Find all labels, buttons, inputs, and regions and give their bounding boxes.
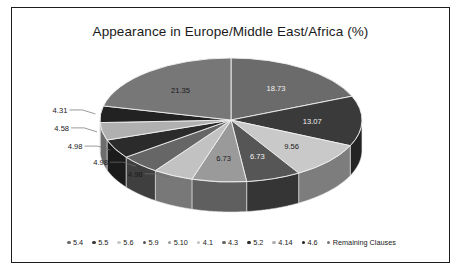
legend-item-label: 5.2 bbox=[253, 239, 263, 246]
data-label-leader-line bbox=[69, 110, 95, 114]
legend-swatch-icon bbox=[67, 241, 71, 245]
legend-item[interactable]: 4.3 bbox=[222, 239, 238, 246]
legend-item[interactable]: 4.14 bbox=[272, 239, 292, 246]
legend-item-label: 5.6 bbox=[123, 239, 133, 246]
chart-title: Appearance in Europe/Middle East/Africa … bbox=[12, 24, 449, 39]
legend-swatch-icon bbox=[168, 241, 172, 245]
pie-data-label: 18.73 bbox=[267, 84, 286, 93]
pie-data-label: 21.35 bbox=[171, 86, 190, 95]
chart-frame: Appearance in Europe/Middle East/Africa … bbox=[11, 7, 450, 263]
legend-item[interactable]: 5.4 bbox=[67, 239, 83, 246]
legend-item-label: 5.10 bbox=[174, 239, 188, 246]
legend-swatch-icon bbox=[92, 241, 96, 245]
legend-swatch-icon bbox=[272, 241, 276, 245]
pie-data-label: 4.31 bbox=[53, 106, 68, 115]
legend-item[interactable]: 5.6 bbox=[117, 239, 133, 246]
pie-data-label: 4.98 bbox=[128, 170, 143, 179]
legend-item-label: 5.4 bbox=[73, 239, 83, 246]
chart-legend: 5.45.55.65.95.104.14.35.24.144.6Remainin… bbox=[12, 239, 451, 246]
legend-item[interactable]: 5.5 bbox=[92, 239, 108, 246]
legend-swatch-icon bbox=[197, 241, 201, 245]
legend-item[interactable]: 5.2 bbox=[247, 239, 263, 246]
legend-item[interactable]: 5.9 bbox=[143, 239, 159, 246]
legend-swatch-icon bbox=[247, 241, 251, 245]
legend-swatch-icon bbox=[327, 241, 331, 245]
legend-swatch-icon bbox=[117, 241, 121, 245]
legend-item[interactable]: Remaining Clauses bbox=[327, 239, 396, 246]
pie-data-label: 6.73 bbox=[216, 154, 231, 163]
legend-swatch-icon bbox=[222, 241, 226, 245]
legend-item-label: 4.1 bbox=[203, 239, 213, 246]
data-label-leader-line bbox=[71, 128, 97, 132]
legend-swatch-icon bbox=[143, 241, 147, 245]
pie-data-label: 13.07 bbox=[303, 117, 322, 126]
legend-item-label: 4.3 bbox=[228, 239, 238, 246]
pie-data-label: 9.56 bbox=[284, 142, 299, 151]
pie-data-label: 6.73 bbox=[250, 152, 265, 161]
pie-data-label: 4.98 bbox=[93, 158, 108, 167]
pie-data-label: 4.98 bbox=[68, 142, 83, 151]
pie-chart-svg: 18.7313.079.566.736.734.984.984.984.584.… bbox=[12, 38, 451, 218]
pie-slice-side bbox=[192, 179, 247, 212]
legend-item-label: 4.6 bbox=[308, 239, 318, 246]
legend-item[interactable]: 5.10 bbox=[168, 239, 188, 246]
legend-item-label: Remaining Clauses bbox=[333, 239, 396, 246]
legend-item[interactable]: 4.6 bbox=[302, 239, 318, 246]
legend-item-label: 5.9 bbox=[149, 239, 159, 246]
legend-item[interactable]: 4.1 bbox=[197, 239, 213, 246]
pie-chart-plot-area: 18.7313.079.566.736.734.984.984.984.584.… bbox=[12, 38, 451, 218]
legend-item-label: 4.14 bbox=[278, 239, 292, 246]
pie-slices bbox=[100, 58, 362, 182]
legend-swatch-icon bbox=[302, 241, 306, 245]
pie-data-label: 4.58 bbox=[54, 124, 69, 133]
legend-item-label: 5.5 bbox=[98, 239, 108, 246]
